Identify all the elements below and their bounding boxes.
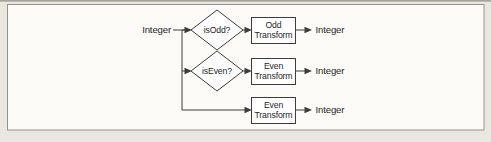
process-label-line2: Transform [255, 30, 293, 40]
decision-label: isEven? [202, 66, 232, 76]
output-label: Integer [316, 24, 346, 35]
decision-label: isOdd? [204, 25, 231, 35]
process-label-line1: Odd [266, 20, 282, 30]
process-label-line1: Even [264, 100, 284, 110]
process-label-line2: Transform [255, 110, 293, 120]
process-label-line1: Even [264, 61, 284, 71]
flowchart-figure: Integer isOdd? Odd Transform Integer isE… [0, 0, 491, 142]
scanned-figure: Integer isOdd? Odd Transform Integer isE… [0, 0, 491, 142]
output-label: Integer [316, 104, 346, 115]
process-label-line2: Transform [255, 71, 293, 81]
input-label: Integer [142, 24, 172, 35]
output-label: Integer [316, 65, 346, 76]
